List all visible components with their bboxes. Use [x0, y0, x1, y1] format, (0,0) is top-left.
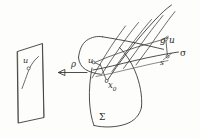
- projection-arrow: [58, 70, 87, 76]
- label-s-parameter: s: [160, 59, 164, 67]
- label-sigma-small: σ: [180, 49, 186, 58]
- label-rho: ρ: [71, 60, 76, 69]
- point-markers: [92, 38, 169, 83]
- label-x-zero: x0: [108, 81, 116, 92]
- label-u-surface: u: [88, 57, 93, 65]
- label-x-zero-subscript: 0: [113, 86, 117, 92]
- label-gsu-argument: u: [169, 35, 175, 45]
- manifold-surface: [79, 36, 164, 127]
- figure-canvas: u ρ u x0 Σ gsu s σ: [0, 0, 200, 138]
- label-u-plane: u: [23, 57, 28, 65]
- local-chart-plane: [18, 44, 45, 124]
- label-gsu: gsu: [160, 34, 175, 45]
- label-sigma-capital: Σ: [99, 113, 105, 122]
- chart-point-u: [27, 67, 30, 70]
